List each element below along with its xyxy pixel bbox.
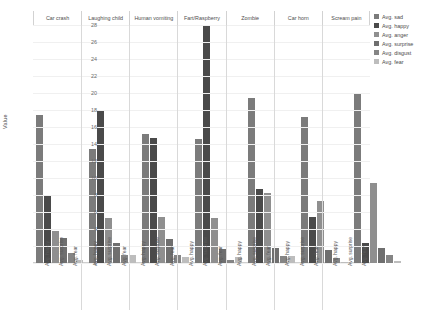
legend-swatch-icon	[374, 32, 379, 37]
x-label-group: Avg. happyAvg. surpriseAvg. fear	[274, 264, 322, 319]
category-header: Zombie	[226, 11, 274, 25]
y-axis-tick-label: 28	[73, 22, 97, 28]
legend-swatch-icon	[374, 23, 379, 28]
x-label-separator	[177, 264, 178, 310]
legend-item[interactable]: Avg. fear	[374, 57, 436, 66]
category-header: Fart/Raspberry	[177, 11, 225, 25]
x-label-group: Avg. happyAvg. surpriseAvg. fear	[226, 264, 274, 319]
x-axis-tick-label: Avg. fear	[217, 246, 223, 266]
x-label-group: Avg. happyAvg. surpriseAvg. fear	[322, 264, 370, 319]
category-header: Scream pain	[322, 11, 370, 25]
legend-item[interactable]: Avg. sad	[374, 12, 436, 21]
y-axis-tick-label: 16	[73, 124, 97, 130]
bar[interactable]	[195, 139, 202, 263]
y-axis-tick-label: 4	[73, 226, 97, 232]
x-axis-labels: Avg. happyAvg. surpriseAvg. fearAvg. hap…	[33, 264, 370, 319]
x-axis-tick-label: Avg. fear	[265, 246, 271, 266]
legend-label: Avg. anger	[382, 32, 408, 38]
x-axis-tick-label: Avg. happy	[284, 241, 290, 266]
x-axis-tick-label: Avg. fear	[169, 246, 175, 266]
legend: Avg. sadAvg. happyAvg. angerAvg. surpris…	[374, 12, 436, 66]
y-axis-tick-label: 8	[73, 192, 97, 198]
bar[interactable]	[370, 183, 377, 263]
x-label-separator	[274, 264, 275, 310]
legend-label: Avg. fear	[382, 59, 403, 65]
y-axis-tick-label: 14	[73, 141, 97, 147]
legend-swatch-icon	[374, 41, 379, 46]
x-axis-tick-label: Avg. happy	[44, 241, 50, 266]
legend-item[interactable]: Avg. disgust	[374, 48, 436, 57]
group-separator	[226, 25, 227, 263]
x-axis-tick-label: Avg. happy	[92, 241, 98, 266]
legend-item[interactable]: Avg. anger	[374, 30, 436, 39]
group-separator	[274, 25, 275, 263]
x-label-separator	[129, 264, 130, 310]
bar[interactable]	[394, 261, 401, 263]
y-axis-tick-label: 6	[73, 209, 97, 215]
legend-label: Avg. happy	[382, 23, 409, 29]
y-axis-tick-label: 26	[73, 39, 97, 45]
x-label-group: Avg. happyAvg. surpriseAvg. fear	[177, 264, 225, 319]
x-axis-tick-label: Avg. happy	[332, 241, 338, 266]
group-separator	[322, 25, 323, 263]
bar[interactable]	[378, 248, 385, 263]
x-axis-tick-label: Avg. surprise	[202, 237, 208, 266]
x-axis-tick-label: Avg. surprise	[347, 237, 353, 266]
bar[interactable]	[256, 189, 263, 263]
y-axis-tick-label: 22	[73, 73, 97, 79]
x-axis-tick-label: Avg. surprise	[154, 237, 160, 266]
x-axis-tick-label: Avg. happy	[140, 241, 146, 266]
legend-swatch-icon	[374, 50, 379, 55]
legend-label: Avg. surprise	[382, 41, 413, 47]
x-axis-tick-label: Avg. happy	[188, 241, 194, 266]
x-label-separator	[322, 264, 323, 310]
y-axis-tick-label: 10	[73, 175, 97, 181]
x-axis-tick-label: Avg. surprise	[251, 237, 257, 266]
bar[interactable]	[97, 110, 104, 263]
bar[interactable]	[36, 115, 43, 263]
y-axis-title: Value	[2, 114, 8, 129]
legend-swatch-icon	[374, 59, 379, 64]
x-axis-tick-label: Avg. surprise	[58, 237, 64, 266]
bar[interactable]	[325, 250, 332, 263]
x-axis-tick-label: Avg. fear	[313, 246, 319, 266]
x-axis-tick-label: Avg. surprise	[299, 237, 305, 266]
legend-item[interactable]: Avg. surprise	[374, 39, 436, 48]
x-label-group: Avg. happyAvg. surpriseAvg. fear	[129, 264, 177, 319]
group-separator	[129, 25, 130, 263]
legend-label: Avg. disgust	[382, 50, 411, 56]
x-axis-tick-label: Avg. fear	[361, 246, 367, 266]
group-separator	[177, 25, 178, 263]
y-axis-tick-label: 18	[73, 107, 97, 113]
x-label-separator	[81, 264, 82, 310]
y-axis-tick-label: 24	[73, 56, 97, 62]
category-header: Human vomiting	[129, 11, 177, 25]
x-axis-tick-label: Avg. fear	[72, 246, 78, 266]
y-axis-tick-label: 12	[73, 158, 97, 164]
legend-swatch-icon	[374, 14, 379, 19]
x-axis-tick-label: Avg. surprise	[106, 237, 112, 266]
x-axis-tick-label: Avg. happy	[236, 241, 242, 266]
x-label-group: Avg. happyAvg. surpriseAvg. fear	[33, 264, 81, 319]
chart-root: Value Car crashLaughing childHuman vomit…	[0, 0, 438, 327]
bar[interactable]	[386, 255, 393, 264]
legend-label: Avg. sad	[382, 14, 403, 20]
x-axis-tick-label: Avg. fear	[121, 246, 127, 266]
x-label-group: Avg. happyAvg. surpriseAvg. fear	[81, 264, 129, 319]
y-axis-tick-label: 20	[73, 90, 97, 96]
category-header: Car horn	[274, 11, 322, 25]
x-label-separator	[226, 264, 227, 310]
legend-item[interactable]: Avg. happy	[374, 21, 436, 30]
